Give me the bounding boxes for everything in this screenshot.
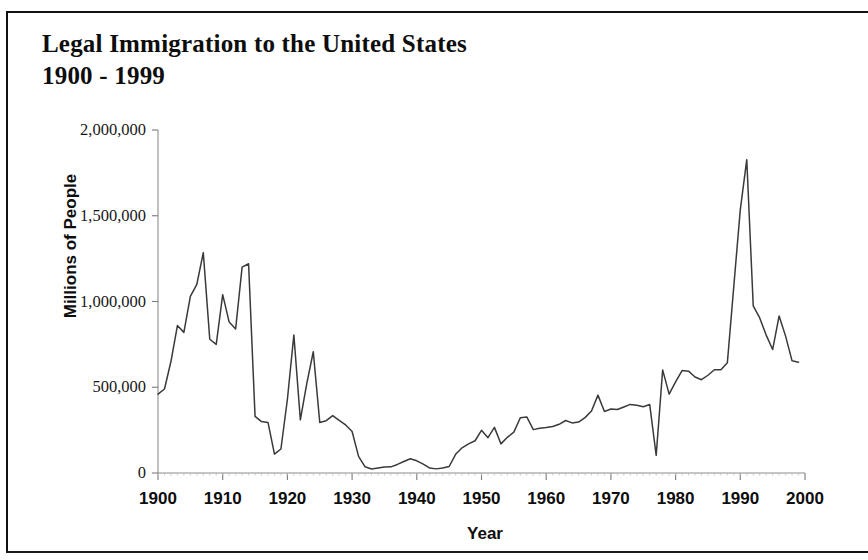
- y-axis-tick-label: 0: [10, 463, 146, 483]
- x-axis-tick-label: 2000: [765, 489, 845, 509]
- y-axis-tick-label: 2,000,000: [10, 120, 146, 140]
- y-axis-tick-label: 500,000: [10, 377, 146, 397]
- y-axis-tick-label: 1,000,000: [10, 292, 146, 312]
- data-series-line: [158, 160, 799, 469]
- y-axis-tick-label: 1,500,000: [10, 206, 146, 226]
